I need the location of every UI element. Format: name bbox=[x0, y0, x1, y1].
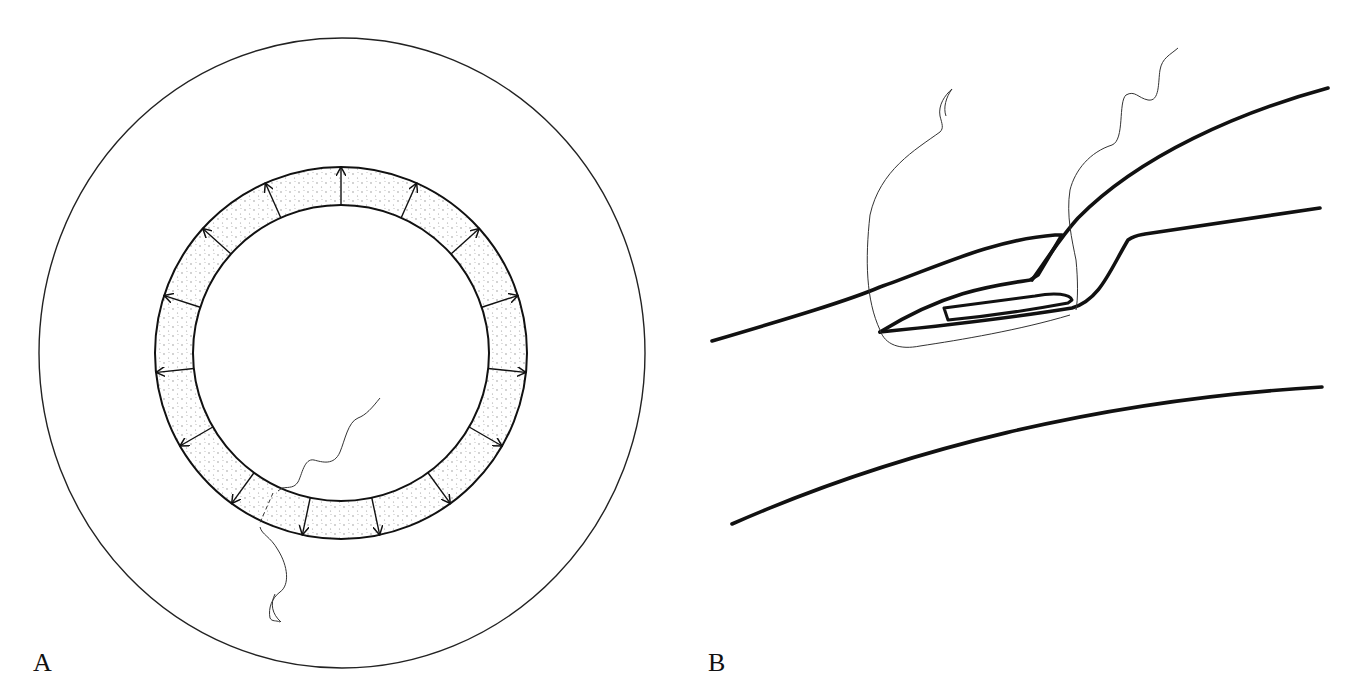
panel-label-b: B bbox=[708, 648, 725, 678]
outer-boundary-circle bbox=[39, 38, 645, 668]
panel-label-a: A bbox=[33, 648, 52, 678]
ring-inner-circle bbox=[193, 205, 489, 501]
thread-end-loop bbox=[272, 594, 281, 622]
upper-right-line bbox=[1032, 88, 1328, 280]
stippled-ring bbox=[155, 167, 527, 539]
figure-canvas bbox=[0, 0, 1350, 699]
wavy-thread-inner bbox=[278, 398, 380, 491]
upper-left-line bbox=[712, 235, 1062, 341]
wavy-thread-outer bbox=[260, 527, 287, 622]
panel-b bbox=[712, 48, 1328, 524]
panel-a bbox=[39, 38, 645, 668]
lower-curve bbox=[732, 387, 1322, 524]
